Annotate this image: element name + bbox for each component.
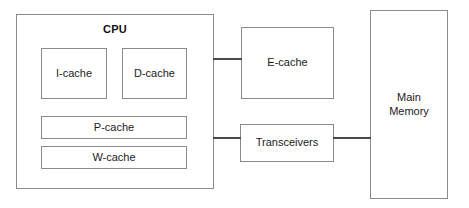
- p-cache-label: P-cache: [94, 121, 134, 135]
- e-cache-label: E-cache: [267, 56, 307, 70]
- block-diagram: CPU I-cache D-cache P-cache W-cache E-ca…: [0, 0, 469, 208]
- w-cache-label: W-cache: [92, 151, 135, 165]
- connector-cpu-to-transceivers: [213, 137, 241, 139]
- d-cache-label: D-cache: [134, 67, 175, 81]
- i-cache-box: I-cache: [41, 48, 107, 99]
- e-cache-box: E-cache: [241, 27, 334, 99]
- i-cache-label: I-cache: [56, 67, 92, 81]
- transceivers-box: Transceivers: [240, 124, 334, 162]
- w-cache-box: W-cache: [41, 146, 187, 169]
- main-memory-label: Main Memory: [389, 91, 429, 119]
- connector-transceivers-to-main-memory: [333, 137, 371, 139]
- d-cache-box: D-cache: [122, 48, 187, 99]
- main-memory-box: Main Memory: [370, 10, 448, 199]
- transceivers-label: Transceivers: [256, 136, 319, 150]
- cpu-block-title: CPU: [17, 23, 213, 37]
- p-cache-box: P-cache: [41, 116, 187, 139]
- connector-cpu-to-e-cache: [213, 58, 242, 60]
